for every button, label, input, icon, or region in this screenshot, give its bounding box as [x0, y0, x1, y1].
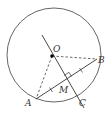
label-o: O [53, 44, 61, 54]
label-c: C [79, 98, 86, 108]
label-b: B [97, 55, 105, 65]
point-o [50, 54, 54, 58]
radius-ob [52, 56, 97, 59]
radius-oa [36, 56, 52, 99]
label-m: M [58, 85, 69, 95]
circle-diagram: O B M A C [0, 0, 111, 114]
label-a: A [24, 98, 32, 108]
